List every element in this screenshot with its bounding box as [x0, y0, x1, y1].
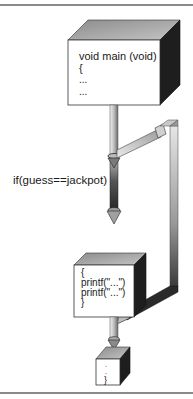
main-block: void main (void) { ... ... — [68, 20, 180, 105]
pipe-if-to-end — [108, 317, 120, 350]
end-block: . . } — [96, 347, 130, 385]
end-line-3: } — [104, 375, 107, 385]
main-line-1: void main (void) — [79, 50, 157, 62]
main-line-3: ... — [79, 74, 87, 85]
if-block: { printf("...") printf("...") } — [74, 253, 146, 317]
pipe-main-to-if — [107, 105, 121, 224]
flow-diagram: void main (void) { ... ... { printf — [0, 0, 193, 399]
end-line-1: . — [105, 361, 107, 368]
if-block-top — [74, 253, 146, 265]
end-line-2: . — [105, 368, 107, 375]
if-line-3: printf("...") — [81, 287, 125, 298]
main-line-2: { — [79, 62, 83, 74]
condition-label: if(guess==jackpot) — [13, 174, 107, 186]
end-block-face — [96, 359, 120, 385]
main-line-4: ... — [79, 86, 87, 97]
arrowhead-into-if — [107, 211, 121, 224]
pipe-bypass-diagonal — [117, 124, 166, 158]
